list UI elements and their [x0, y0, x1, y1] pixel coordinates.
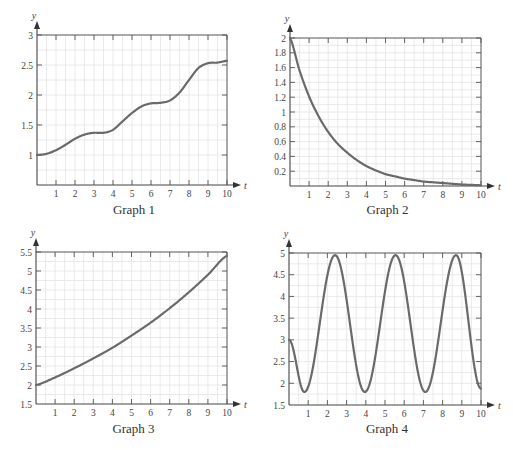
- y-tick-label: 1.8: [274, 48, 286, 58]
- y-tick-label: 1.5: [21, 121, 33, 131]
- x-tick-label: 7: [421, 190, 426, 200]
- graph-4: ty123456789101.522.533.544.55Graph 4: [273, 228, 501, 436]
- x-axis-label: t: [498, 181, 501, 192]
- x-tick-label: 6: [148, 408, 153, 418]
- x-tick-label: 9: [206, 408, 211, 418]
- y-tick-label: 1.2: [274, 93, 286, 103]
- graph-caption: Graph 3: [112, 421, 154, 436]
- x-tick-label: 5: [130, 189, 135, 199]
- x-tick-label: 7: [168, 189, 173, 199]
- y-axis-label: y: [283, 228, 289, 239]
- y-tick-label: 2.5: [273, 357, 285, 367]
- x-tick-label: 4: [363, 409, 368, 419]
- y-tick-label: 2: [280, 379, 285, 389]
- y-tick-label: 0.2: [274, 167, 286, 177]
- y-axis-arrow-icon: [286, 239, 292, 247]
- y-tick-label: 2.5: [21, 61, 33, 71]
- y-tick-label: 2: [27, 381, 32, 391]
- y-tick-label: 5: [27, 267, 32, 277]
- graph-caption: Graph 2: [366, 202, 408, 217]
- x-tick-label: 3: [91, 408, 96, 418]
- x-tick-label: 5: [383, 190, 388, 200]
- x-tick-label: 6: [149, 189, 154, 199]
- x-tick-label: 3: [345, 190, 350, 200]
- graph-3: ty123456789101.522.533.544.555.5Graph 3: [20, 227, 247, 436]
- grid-lines: [36, 252, 227, 404]
- x-tick-label: 1: [53, 408, 58, 418]
- graph-1: ty1234567891011.522.53Graph 1: [21, 10, 247, 217]
- x-axis-label: t: [244, 180, 247, 191]
- y-tick-label: 2.5: [20, 362, 32, 372]
- x-tick-label: 3: [92, 189, 97, 199]
- graph-caption: Graph 1: [113, 202, 155, 217]
- y-tick-label: 0.8: [274, 122, 286, 132]
- y-tick-label: 4: [27, 305, 32, 315]
- x-tick-label: 1: [307, 190, 312, 200]
- x-axis-arrow-icon: [233, 182, 241, 188]
- x-tick-label: 5: [383, 409, 388, 419]
- grid-lines: [37, 35, 227, 185]
- y-tick-label: 2: [281, 34, 286, 44]
- x-tick-label: 7: [167, 408, 172, 418]
- x-tick-label: 10: [476, 190, 486, 200]
- x-tick-label: 2: [326, 190, 331, 200]
- x-tick-label: 1: [306, 409, 311, 419]
- y-tick-label: 5: [280, 249, 285, 259]
- y-tick-label: 3.5: [273, 314, 285, 324]
- x-tick-label: 4: [110, 408, 115, 418]
- y-axis-arrow-icon: [33, 238, 39, 246]
- x-axis-arrow-icon: [487, 402, 495, 408]
- y-tick-label: 1: [281, 108, 286, 118]
- y-tick-label: 1.5: [20, 400, 32, 410]
- y-tick-label: 3: [280, 335, 285, 345]
- x-tick-label: 8: [440, 409, 445, 419]
- y-tick-label: 3.5: [20, 324, 32, 334]
- x-tick-label: 9: [459, 409, 464, 419]
- grid-lines: [290, 38, 481, 186]
- y-tick-label: 4.5: [20, 286, 32, 296]
- graph-caption: Graph 4: [366, 421, 409, 436]
- x-tick-label: 10: [476, 409, 486, 419]
- y-tick-label: 1.6: [274, 63, 286, 73]
- x-axis-label: t: [244, 399, 247, 410]
- graph-2: ty123456789100.20.40.60.811.21.41.61.82G…: [274, 13, 501, 217]
- y-tick-label: 0.6: [274, 137, 286, 147]
- x-tick-label: 10: [222, 408, 232, 418]
- x-tick-label: 1: [54, 189, 59, 199]
- y-tick-label: 5.5: [20, 248, 32, 258]
- y-tick-label: 4.5: [273, 270, 285, 280]
- y-axis-label: y: [284, 13, 290, 24]
- y-tick-label: 1.4: [274, 78, 286, 88]
- y-tick-label: 3: [28, 31, 33, 41]
- x-tick-label: 5: [129, 408, 134, 418]
- x-tick-label: 8: [187, 189, 192, 199]
- y-tick-label: 3: [27, 343, 32, 353]
- y-tick-label: 4: [280, 292, 285, 302]
- y-tick-label: 1.5: [273, 401, 285, 411]
- x-tick-label: 6: [402, 190, 407, 200]
- x-tick-label: 2: [325, 409, 330, 419]
- x-tick-label: 9: [460, 190, 465, 200]
- x-tick-label: 3: [344, 409, 349, 419]
- grid-lines: [289, 253, 481, 405]
- x-tick-label: 10: [222, 189, 232, 199]
- x-tick-label: 2: [72, 408, 77, 418]
- y-tick-label: 0.4: [274, 152, 286, 162]
- x-tick-label: 7: [421, 409, 426, 419]
- x-tick-label: 4: [111, 189, 116, 199]
- x-tick-label: 8: [186, 408, 191, 418]
- x-axis-label: t: [498, 400, 501, 411]
- graphs-figure: ty1234567891011.522.53Graph 1ty123456789…: [0, 0, 513, 450]
- y-axis-arrow-icon: [287, 24, 293, 32]
- x-axis-arrow-icon: [487, 183, 495, 189]
- x-tick-label: 4: [364, 190, 369, 200]
- x-tick-label: 9: [206, 189, 211, 199]
- y-tick-label: 2: [28, 91, 33, 101]
- y-axis-label: y: [31, 10, 37, 21]
- x-axis-arrow-icon: [233, 401, 241, 407]
- y-tick-label: 1: [28, 151, 33, 161]
- x-tick-label: 6: [402, 409, 407, 419]
- y-axis-arrow-icon: [34, 21, 40, 29]
- x-tick-label: 2: [73, 189, 78, 199]
- y-axis-label: y: [30, 227, 36, 238]
